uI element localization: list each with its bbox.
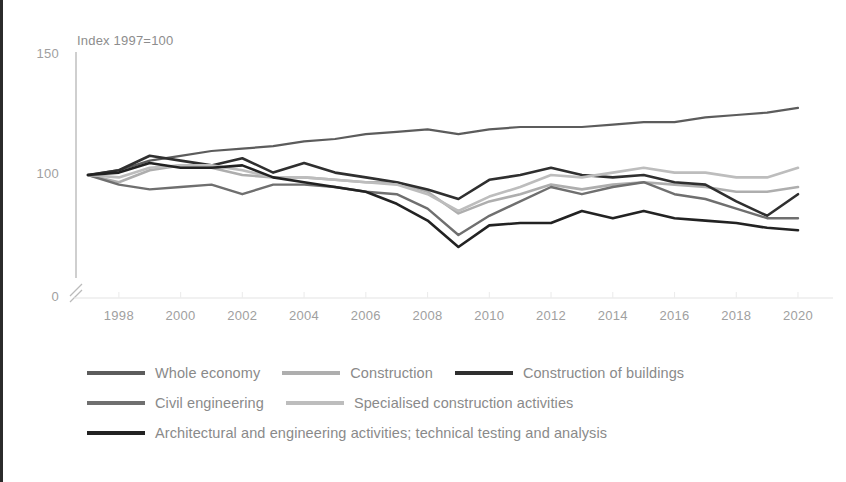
legend-label: Specialised construction activities	[354, 395, 574, 411]
legend-swatch-icon	[286, 401, 344, 405]
x-axis-tick-label: 1998	[96, 308, 142, 323]
x-axis-tick-label: 2016	[652, 308, 698, 323]
x-axis-tick-label: 2014	[590, 308, 636, 323]
x-axis-tick-label: 2010	[466, 308, 512, 323]
legend-row: Civil engineeringSpecialised constructio…	[3, 388, 846, 418]
chart-plot-area	[3, 0, 846, 350]
legend-swatch-icon	[87, 431, 145, 435]
x-axis-tick-label: 2012	[528, 308, 574, 323]
legend-swatch-icon	[282, 371, 340, 375]
y-axis-tick-label: 150	[25, 46, 59, 61]
axis-break-marker	[70, 284, 82, 302]
legend-item[interactable]: Whole economy	[87, 365, 260, 381]
x-axis-tick-label: 2004	[281, 308, 327, 323]
legend-swatch-icon	[455, 371, 513, 375]
chart-legend: Whole economyConstructionConstruction of…	[3, 358, 846, 448]
legend-label: Architectural and engineering activities…	[155, 425, 607, 441]
chart-frame: Index 1997=100 0100150 19982000200220042…	[0, 0, 846, 482]
legend-label: Construction	[350, 365, 433, 381]
y-axis-tick-label: 0	[25, 289, 59, 304]
legend-label: Construction of buildings	[523, 365, 684, 381]
legend-label: Civil engineering	[155, 395, 264, 411]
y-axis-tick-label: 100	[25, 166, 59, 181]
x-axis-tick-label: 2020	[775, 308, 821, 323]
x-axis-tick-label: 2002	[219, 308, 265, 323]
line-chart-svg	[3, 0, 846, 350]
x-axis-tick-label: 2018	[713, 308, 759, 323]
legend-swatch-icon	[87, 371, 145, 375]
legend-item[interactable]: Specialised construction activities	[286, 395, 574, 411]
x-axis-tick-label: 2000	[158, 308, 204, 323]
series-line-architectural-and-engineering-activities-technical-testing-and-analysis	[88, 163, 798, 247]
legend-label: Whole economy	[155, 365, 260, 381]
legend-item[interactable]: Architectural and engineering activities…	[87, 425, 607, 441]
legend-item[interactable]: Construction	[282, 365, 433, 381]
legend-item[interactable]: Civil engineering	[87, 395, 264, 411]
legend-swatch-icon	[87, 401, 145, 405]
legend-row: Whole economyConstructionConstruction of…	[3, 358, 846, 388]
x-axis-tick-label: 2008	[405, 308, 451, 323]
x-axis-tick-label: 2006	[343, 308, 389, 323]
legend-item[interactable]: Construction of buildings	[455, 365, 684, 381]
legend-row: Architectural and engineering activities…	[3, 418, 846, 448]
